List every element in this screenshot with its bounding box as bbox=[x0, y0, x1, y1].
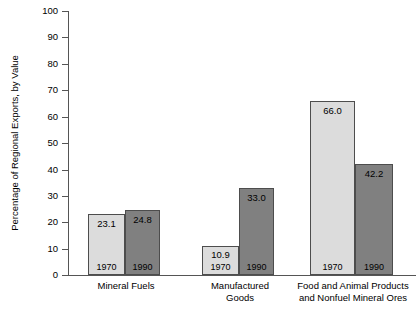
y-tick-label-0-wrap: 0 bbox=[34, 270, 58, 280]
bar-year-label: 1990 bbox=[356, 262, 392, 272]
bar-value-label: 42.2 bbox=[356, 169, 392, 179]
y-tick-label-50: 50 bbox=[34, 138, 58, 148]
y-tick-label-80-wrap: 80 bbox=[34, 59, 58, 69]
y-tick-label-10-wrap: 10 bbox=[34, 244, 58, 254]
y-tick-label-20: 20 bbox=[34, 217, 58, 227]
y-tick-label-30: 30 bbox=[34, 191, 58, 201]
bar-mineral-fuels-1970[interactable]: 23.1 1970 bbox=[88, 214, 125, 275]
y-tick-label-70-wrap: 70 bbox=[34, 85, 58, 95]
bar-food-animal-products-1970[interactable]: 66.0 1970 bbox=[310, 101, 355, 275]
y-tick-label-40: 40 bbox=[34, 165, 58, 175]
y-tick-label-70: 70 bbox=[34, 85, 58, 95]
bar-manufactured-goods-1970[interactable]: 10.9 1970 bbox=[202, 246, 239, 275]
y-tick-0 bbox=[62, 275, 68, 276]
y-tick-label-10: 10 bbox=[34, 244, 58, 254]
bar-year-label: 1970 bbox=[203, 262, 238, 272]
bar-food-animal-products-1990[interactable]: 42.2 1990 bbox=[355, 164, 393, 275]
y-tick-label-0: 0 bbox=[34, 270, 58, 280]
y-tick-label-30-wrap: 30 bbox=[34, 191, 58, 201]
bar-mineral-fuels-1990[interactable]: 24.8 1990 bbox=[125, 210, 160, 275]
bar-year-label: 1970 bbox=[311, 262, 354, 272]
bar-value-label: 33.0 bbox=[240, 193, 273, 203]
y-tick-label-90: 90 bbox=[34, 32, 58, 42]
category-label-mineral-fuels: Mineral Fuels bbox=[68, 280, 184, 292]
category-label-food-animal-products: Food and Animal Products and Nonfuel Min… bbox=[288, 280, 418, 303]
y-tick-label-20-wrap: 20 bbox=[34, 217, 58, 227]
bar-value-label: 66.0 bbox=[311, 106, 354, 116]
y-tick-label-60-wrap: 60 bbox=[34, 112, 58, 122]
y-tick-label-50-wrap: 50 bbox=[34, 138, 58, 148]
x-axis-line bbox=[68, 275, 416, 276]
bar-year-label: 1970 bbox=[89, 262, 124, 272]
bar-value-label: 24.8 bbox=[126, 215, 159, 225]
bar-manufactured-goods-1990[interactable]: 33.0 1990 bbox=[239, 188, 274, 275]
y-tick-label-40-wrap: 40 bbox=[34, 165, 58, 175]
y-tick-label-100: 100 bbox=[34, 6, 58, 16]
plot-area: 23.1 1970 24.8 1990 10.9 1970 33.0 1990 … bbox=[68, 11, 416, 275]
category-label-manufactured-goods: Manufactured Goods bbox=[182, 280, 298, 303]
y-axis-title: Percentage of Regional Exports, by Value bbox=[8, 11, 22, 275]
bar-value-label: 23.1 bbox=[89, 219, 124, 229]
y-tick-label-90-wrap: 90 bbox=[34, 32, 58, 42]
y-tick-label-60: 60 bbox=[34, 112, 58, 122]
bar-year-label: 1990 bbox=[126, 262, 159, 272]
bar-value-label: 10.9 bbox=[203, 250, 238, 260]
y-tick-label-80: 80 bbox=[34, 59, 58, 69]
y-tick-label-100-wrap: 100 bbox=[34, 6, 58, 16]
bar-chart: Percentage of Regional Exports, by Value… bbox=[0, 0, 418, 317]
bar-year-label: 1990 bbox=[240, 262, 273, 272]
